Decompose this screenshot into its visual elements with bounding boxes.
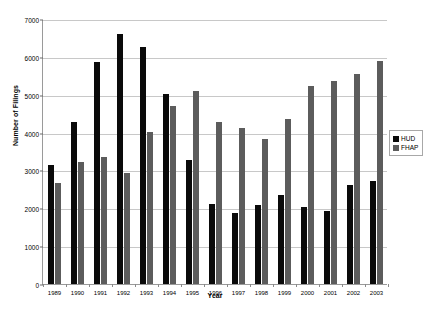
bar-hud-2001 bbox=[324, 211, 330, 284]
bar-hud-1990 bbox=[71, 122, 77, 284]
chart-legend: HUDFHAP bbox=[389, 130, 423, 156]
bar-hud-2003 bbox=[370, 181, 376, 284]
y-tick-label: 0 bbox=[35, 282, 39, 289]
legend-swatch-fhap bbox=[393, 145, 399, 151]
bar-group bbox=[89, 20, 112, 284]
bar-fhap-1994 bbox=[170, 106, 176, 284]
bar-fhap-2002 bbox=[354, 74, 360, 284]
x-tick-mark bbox=[66, 284, 67, 287]
x-tick-mark bbox=[273, 284, 274, 287]
bar-group bbox=[66, 20, 89, 284]
x-tick-mark bbox=[89, 284, 90, 287]
x-tick-mark bbox=[342, 284, 343, 287]
bar-group bbox=[365, 20, 388, 284]
bar-hud-1992 bbox=[117, 34, 123, 284]
bar-group bbox=[227, 20, 250, 284]
bar-fhap-1996 bbox=[216, 122, 222, 284]
y-tick-label: 3000 bbox=[25, 168, 39, 175]
bar-group bbox=[158, 20, 181, 284]
bar-hud-1989 bbox=[48, 165, 54, 284]
bar-hud-1999 bbox=[278, 195, 284, 284]
bar-group bbox=[43, 20, 66, 284]
bar-group bbox=[112, 20, 135, 284]
bar-group bbox=[273, 20, 296, 284]
y-tick-label: 5000 bbox=[25, 92, 39, 99]
bar-hud-2002 bbox=[347, 185, 353, 284]
x-tick-mark bbox=[388, 284, 389, 287]
bar-hud-1997 bbox=[232, 213, 238, 284]
x-axis-title: Year bbox=[0, 292, 430, 299]
bar-group bbox=[342, 20, 365, 284]
bar-fhap-1999 bbox=[285, 119, 291, 284]
bar-chart: Number of Filings 0100020003000400050006… bbox=[0, 0, 430, 311]
bar-group bbox=[181, 20, 204, 284]
legend-swatch-hud bbox=[393, 136, 399, 142]
x-tick-mark bbox=[365, 284, 366, 287]
bar-fhap-1991 bbox=[101, 157, 107, 284]
y-tick-label: 1000 bbox=[25, 244, 39, 251]
x-tick-mark bbox=[158, 284, 159, 287]
y-axis-title: Number of Filings bbox=[12, 71, 19, 161]
bar-group bbox=[319, 20, 342, 284]
bar-fhap-2001 bbox=[331, 81, 337, 284]
x-tick-mark bbox=[227, 284, 228, 287]
y-tick-label: 4000 bbox=[25, 130, 39, 137]
bar-hud-1993 bbox=[140, 47, 146, 284]
x-tick-mark bbox=[43, 284, 44, 287]
bar-fhap-2000 bbox=[308, 86, 314, 284]
legend-label-fhap: FHAP bbox=[401, 143, 418, 152]
x-tick-mark bbox=[135, 284, 136, 287]
bar-fhap-1995 bbox=[193, 91, 199, 284]
y-tick-label: 6000 bbox=[25, 54, 39, 61]
x-tick-mark bbox=[296, 284, 297, 287]
x-tick-mark bbox=[204, 284, 205, 287]
bar-fhap-1997 bbox=[239, 128, 245, 284]
bar-hud-1995 bbox=[186, 160, 192, 284]
plot-area: 01000200030004000500060007000 1989199019… bbox=[42, 20, 387, 285]
bar-group bbox=[296, 20, 319, 284]
legend-label-hud: HUD bbox=[401, 134, 415, 143]
bar-group bbox=[204, 20, 227, 284]
bar-fhap-1993 bbox=[147, 132, 153, 284]
bar-hud-2000 bbox=[301, 207, 307, 284]
bar-fhap-1998 bbox=[262, 139, 268, 284]
bar-fhap-2003 bbox=[377, 61, 383, 284]
y-tick-label: 7000 bbox=[25, 17, 39, 24]
legend-item-hud: HUD bbox=[393, 134, 418, 143]
y-tick-label: 2000 bbox=[25, 206, 39, 213]
x-tick-mark bbox=[250, 284, 251, 287]
legend-item-fhap: FHAP bbox=[393, 143, 418, 152]
x-tick-mark bbox=[319, 284, 320, 287]
x-tick-mark bbox=[181, 284, 182, 287]
bar-hud-1991 bbox=[94, 62, 100, 284]
bar-fhap-1990 bbox=[78, 162, 84, 284]
bar-group bbox=[250, 20, 273, 284]
x-tick-mark bbox=[112, 284, 113, 287]
bar-hud-1998 bbox=[255, 205, 261, 285]
bar-fhap-1989 bbox=[55, 183, 61, 284]
bar-fhap-1992 bbox=[124, 173, 130, 284]
bar-hud-1996 bbox=[209, 204, 215, 284]
bar-group bbox=[135, 20, 158, 284]
bar-hud-1994 bbox=[163, 94, 169, 284]
